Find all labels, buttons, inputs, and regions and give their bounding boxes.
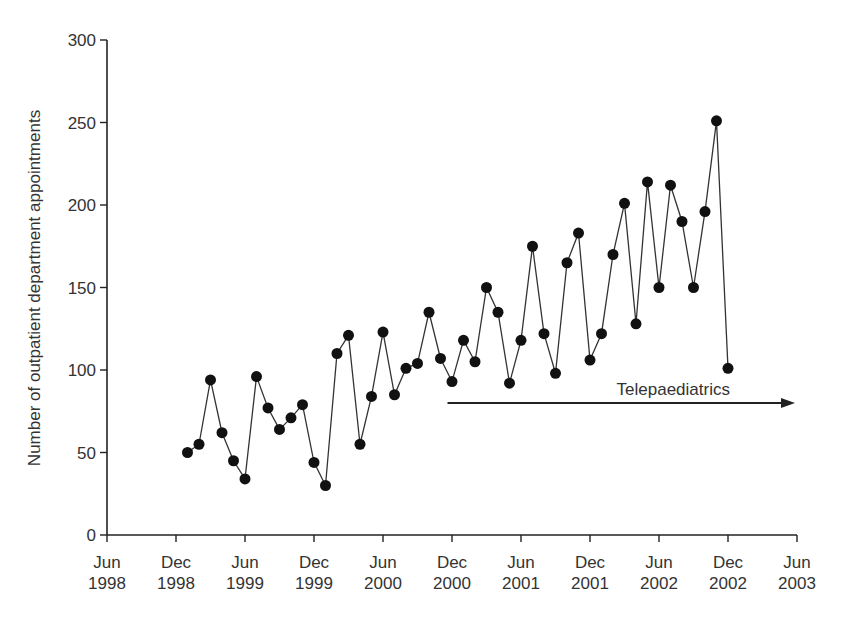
data-point (378, 327, 389, 338)
x-tick-year: 1998 (157, 574, 195, 593)
data-point (332, 348, 343, 359)
telepaediatrics-annotation: Telepaediatrics (448, 380, 796, 408)
x-tick-month: Dec (299, 553, 330, 572)
data-point (470, 356, 481, 367)
data-point (516, 335, 527, 346)
data-point (481, 282, 492, 293)
x-tick-month: Jun (93, 553, 120, 572)
data-point (458, 335, 469, 346)
x-tick-year: 2003 (778, 574, 816, 593)
data-point (366, 391, 377, 402)
arrow-head-icon (781, 398, 795, 408)
line-chart: Number of outpatient department appointm… (0, 0, 843, 623)
x-tick-year: 2000 (364, 574, 402, 593)
data-point (608, 249, 619, 260)
data-point (343, 330, 354, 341)
data-point (274, 424, 285, 435)
x-tick-month: Dec (437, 553, 468, 572)
data-series (182, 115, 734, 491)
data-point (700, 206, 711, 217)
data-point (412, 358, 423, 369)
data-point (320, 480, 331, 491)
x-tick-month: Dec (713, 553, 744, 572)
x-tick-year: 2002 (640, 574, 678, 593)
data-point (297, 399, 308, 410)
data-point (389, 389, 400, 400)
y-tick-label: 50 (77, 444, 96, 463)
x-tick-year: 2000 (433, 574, 471, 593)
x-axis-ticks: Jun1998Dec1998Jun1999Dec1999Jun2000Dec20… (88, 535, 816, 593)
x-tick-month: Jun (507, 553, 534, 572)
x-tick-year: 1999 (226, 574, 264, 593)
x-tick-year: 1998 (88, 574, 126, 593)
annotation-label: Telepaediatrics (617, 380, 730, 399)
y-axis-ticks: 050100150200250300 (68, 31, 107, 545)
data-point (263, 402, 274, 413)
data-point (493, 307, 504, 318)
data-point (677, 216, 688, 227)
data-point (539, 328, 550, 339)
data-point (688, 282, 699, 293)
y-tick-label: 250 (68, 114, 96, 133)
data-point (562, 257, 573, 268)
y-tick-label: 0 (87, 526, 96, 545)
data-point (550, 368, 561, 379)
data-point (205, 374, 216, 385)
data-point (596, 328, 607, 339)
data-point (527, 241, 538, 252)
x-tick-year: 1999 (295, 574, 333, 593)
data-point (619, 198, 630, 209)
data-point (642, 176, 653, 187)
data-point (286, 412, 297, 423)
data-point (504, 378, 515, 389)
data-point (447, 376, 458, 387)
data-point (194, 439, 205, 450)
data-point (424, 307, 435, 318)
series-line (188, 121, 729, 486)
data-point (631, 318, 642, 329)
y-axis-title: Number of outpatient department appointm… (25, 110, 44, 466)
y-axis-label: Number of outpatient department appointm… (25, 110, 44, 466)
data-point (355, 439, 366, 450)
data-point (585, 355, 596, 366)
data-point (217, 427, 228, 438)
data-point (182, 447, 193, 458)
data-point (401, 363, 412, 374)
x-tick-year: 2002 (709, 574, 747, 593)
data-point (711, 115, 722, 126)
data-point (309, 457, 320, 468)
y-tick-label: 150 (68, 279, 96, 298)
data-point (654, 282, 665, 293)
data-point (435, 353, 446, 364)
y-tick-label: 300 (68, 31, 96, 50)
x-tick-year: 2001 (502, 574, 540, 593)
x-tick-month: Dec (575, 553, 606, 572)
x-tick-month: Jun (369, 553, 396, 572)
data-point (240, 473, 251, 484)
data-point (251, 371, 262, 382)
x-tick-month: Jun (231, 553, 258, 572)
y-tick-label: 100 (68, 361, 96, 380)
data-point (665, 180, 676, 191)
x-tick-month: Dec (161, 553, 192, 572)
data-point (228, 455, 239, 466)
x-tick-month: Jun (783, 553, 810, 572)
data-point (573, 228, 584, 239)
y-tick-label: 200 (68, 196, 96, 215)
x-tick-month: Jun (645, 553, 672, 572)
data-point (723, 363, 734, 374)
x-tick-year: 2001 (571, 574, 609, 593)
